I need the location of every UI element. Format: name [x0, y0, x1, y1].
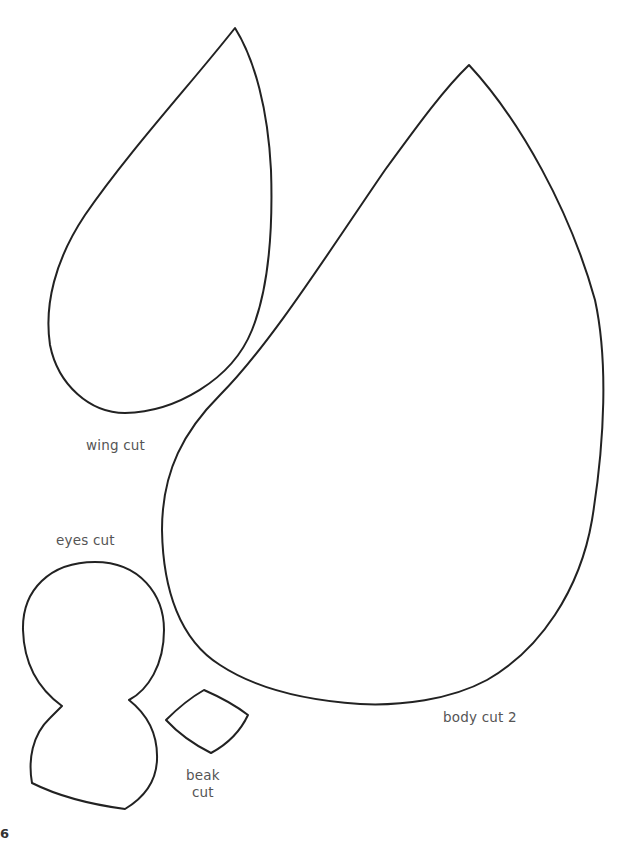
beak-label: beak cut — [186, 767, 220, 801]
wing-label: wing cut — [86, 437, 145, 454]
page-number-fragment: 6 — [0, 826, 9, 841]
beak-outline — [166, 690, 248, 753]
beak-label-line1: beak — [186, 767, 220, 784]
wing-outline — [48, 28, 271, 413]
body-label: body cut 2 — [443, 709, 517, 726]
eyes-outline — [23, 562, 164, 809]
beak-label-line2: cut — [186, 784, 220, 801]
body-outline — [162, 65, 603, 704]
eyes-label: eyes cut — [56, 532, 115, 549]
